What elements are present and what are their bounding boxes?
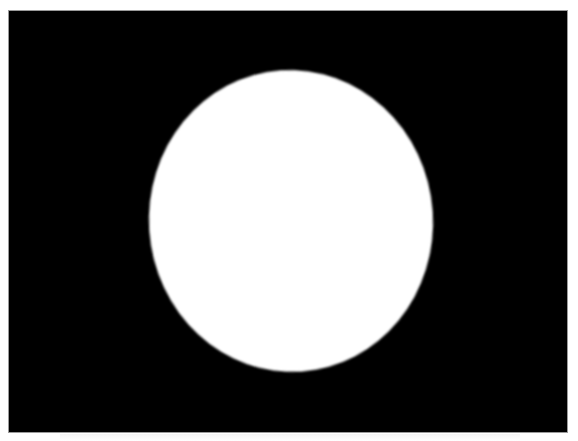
truncated-caption (60, 434, 520, 441)
image-page (0, 0, 578, 441)
image-frame (9, 11, 567, 432)
white-disc (139, 60, 443, 381)
